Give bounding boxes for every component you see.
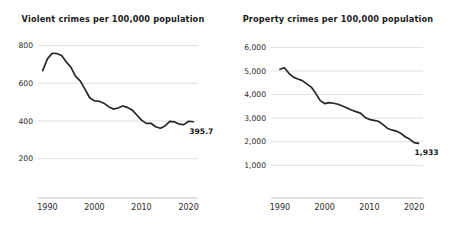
property-crimes-chart-panel: Property crimes per 100,000 population 1… [225, 0, 451, 234]
y-axis-tick-label: 800 [19, 41, 34, 50]
x-axis-tick-label: 1990 [37, 203, 57, 212]
y-axis-tick-label: 4,000 [244, 90, 266, 99]
x-axis-tick-label: 2010 [359, 203, 379, 212]
x-axis-tick-label: 2000 [84, 203, 104, 212]
property-chart-plot: 1,0002,0003,0004,0005,0006,0001990200020… [225, 0, 451, 234]
violent-chart-svg: 2004006008001990200020102020395.7 [0, 0, 226, 234]
violent-chart-plot: 2004006008001990200020102020395.7 [0, 0, 226, 234]
y-axis-tick-label: 5,000 [244, 67, 266, 76]
y-axis-tick-label: 600 [19, 79, 34, 88]
end-value-label: 395.7 [189, 127, 213, 136]
end-value-label: 1,933 [415, 148, 439, 157]
data-series-line [43, 53, 194, 128]
x-axis-tick-label: 2020 [178, 203, 198, 212]
y-axis-tick-label: 3,000 [244, 114, 266, 123]
crime-rate-figure: Violent crimes per 100,000 population 20… [0, 0, 451, 234]
y-axis-tick-label: 200 [19, 154, 34, 163]
x-axis-tick-label: 1990 [270, 203, 290, 212]
x-axis-tick-label: 2000 [314, 203, 334, 212]
data-series-line [280, 68, 419, 144]
x-axis-tick-label: 2010 [131, 203, 151, 212]
y-axis-tick-label: 2,000 [244, 137, 266, 146]
y-axis-tick-label: 6,000 [244, 43, 266, 52]
property-chart-svg: 1,0002,0003,0004,0005,0006,0001990200020… [225, 0, 451, 234]
x-axis-tick-label: 2020 [404, 203, 424, 212]
y-axis-tick-label: 400 [19, 117, 34, 126]
y-axis-tick-label: 1,000 [244, 161, 266, 170]
violent-crimes-chart-panel: Violent crimes per 100,000 population 20… [0, 0, 226, 234]
